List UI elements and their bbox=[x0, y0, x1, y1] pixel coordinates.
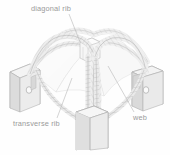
center-pier bbox=[76, 106, 108, 150]
label-diagonal-rib: diagonal rib bbox=[31, 5, 71, 12]
label-web: web bbox=[133, 114, 147, 121]
rib-vault-figure: diagonal rib transverse rib web bbox=[0, 0, 170, 155]
label-transverse-rib: transverse rib bbox=[13, 120, 60, 127]
vault-illustration bbox=[0, 0, 170, 155]
